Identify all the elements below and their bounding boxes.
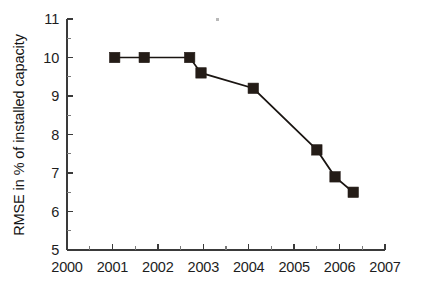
data-point-marker	[139, 52, 149, 62]
x-tick-label-2005: 2005	[278, 259, 310, 275]
data-point-marker	[110, 52, 120, 62]
data-point-marker	[348, 187, 358, 197]
x-tick-label-2004: 2004	[233, 259, 265, 275]
x-tick-label-2001: 2001	[97, 259, 129, 275]
x-tick-label-2000: 2000	[51, 259, 83, 275]
y-tick-label-8: 8	[51, 127, 59, 143]
data-point-marker	[248, 83, 258, 93]
y-tick-label-7: 7	[51, 165, 59, 181]
y-tick-label-6: 6	[51, 204, 59, 220]
data-point-marker	[196, 68, 206, 78]
scan-artifact-speck	[216, 18, 219, 21]
y-tick-label-5: 5	[51, 242, 59, 258]
x-tick-label-2006: 2006	[324, 259, 356, 275]
data-point-marker	[184, 52, 194, 62]
chart-canvas: 567891011 200020012002200320042005200620…	[0, 0, 423, 294]
x-tick-label-2002: 2002	[142, 259, 174, 275]
x-tick-label-2007: 2007	[369, 259, 401, 275]
x-tick-label-2003: 2003	[188, 259, 220, 275]
y-axis-title-group: RMSE in % of installed capacity	[11, 33, 27, 235]
chart-figure: 567891011 200020012002200320042005200620…	[0, 0, 423, 294]
y-tick-label-11: 11	[44, 11, 59, 27]
data-point-marker	[330, 172, 340, 182]
y-axis-title: RMSE in % of installed capacity	[11, 33, 27, 235]
data-point-marker	[312, 145, 322, 155]
y-tick-label-9: 9	[51, 88, 59, 104]
y-tick-label-10: 10	[43, 50, 59, 66]
